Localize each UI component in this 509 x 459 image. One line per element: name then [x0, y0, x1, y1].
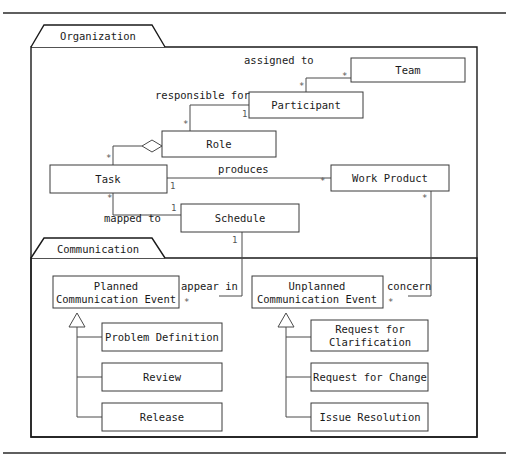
mult-participant-to-role-end: 1	[242, 109, 247, 119]
class-issue-resolution[interactable]: Issue Resolution	[311, 403, 428, 431]
class-label-request-for-clarification-line2: Clarification	[329, 336, 411, 348]
mult-task-produces-end: 1	[170, 181, 175, 191]
class-label-role: Role	[206, 138, 231, 150]
organization-package-label: Organization	[60, 30, 136, 42]
uml-class-diagram: Organization Communication Tea	[0, 0, 509, 459]
diagram-canvas: Organization Communication Tea	[0, 0, 509, 459]
class-label-request-for-change: Request for Change	[313, 371, 427, 383]
generalization-unplanned	[278, 313, 311, 417]
assoc-label-concern: concern	[387, 280, 431, 292]
mult-planned-event-end: *	[184, 297, 189, 307]
class-label-work-product: Work Product	[352, 172, 428, 184]
class-label-problem-definition: Problem Definition	[105, 331, 219, 343]
assoc-label-appear-in: appear in	[181, 280, 238, 292]
mult-unplanned-event-end: *	[388, 297, 393, 307]
class-planned-communication-event[interactable]: Planned Communication Event	[53, 276, 179, 308]
mult-work-product-end: *	[320, 176, 325, 186]
class-problem-definition[interactable]: Problem Definition	[102, 323, 222, 351]
class-label-release: Release	[140, 411, 184, 423]
generalization-planned	[69, 313, 102, 417]
class-schedule[interactable]: Schedule	[181, 204, 299, 232]
class-label-issue-resolution: Issue Resolution	[319, 411, 420, 423]
link-participant-responsible-for-role	[190, 105, 249, 131]
class-request-for-change[interactable]: Request for Change	[311, 363, 428, 391]
class-role[interactable]: Role	[162, 131, 276, 157]
class-release[interactable]: Release	[102, 403, 222, 431]
class-participant[interactable]: Participant	[249, 92, 363, 118]
class-label-task: Task	[95, 173, 121, 185]
class-label-participant: Participant	[271, 99, 341, 111]
mult-participant-to-team-end: *	[299, 81, 304, 91]
generalization-triangle-unplanned	[278, 313, 294, 327]
communication-package-label: Communication	[57, 243, 139, 255]
class-label-review: Review	[143, 371, 182, 383]
class-work-product[interactable]: Work Product	[331, 165, 449, 191]
mult-role-end: *	[183, 119, 188, 129]
class-label-schedule: Schedule	[215, 212, 266, 224]
class-team[interactable]: Team	[351, 58, 465, 82]
link-role-aggregates-task	[113, 146, 142, 165]
mult-role-aggregation-task-end: *	[106, 153, 111, 163]
mult-schedule-end: 1	[171, 203, 176, 213]
class-label-unplanned-communication-event-line2: Communication Event	[257, 293, 377, 305]
mult-team-end: *	[342, 71, 347, 81]
mult-schedule-down-end: 1	[232, 235, 237, 245]
class-request-for-clarification[interactable]: Request for Clarification	[311, 320, 428, 351]
class-label-request-for-clarification-line1: Request for	[335, 323, 405, 335]
class-task[interactable]: Task	[50, 165, 167, 193]
class-label-planned-communication-event-line2: Communication Event	[56, 293, 176, 305]
class-unplanned-communication-event[interactable]: Unplanned Communication Event	[252, 276, 383, 308]
generalization-triangle-planned	[69, 313, 85, 327]
assoc-label-assigned-to: assigned to	[244, 54, 314, 66]
mult-work-product-down-end: *	[422, 193, 427, 203]
assoc-label-responsible-for: responsible for	[155, 89, 250, 101]
class-label-team: Team	[395, 64, 420, 76]
mult-task-mapped-end: *	[107, 193, 112, 203]
assoc-label-produces: produces	[218, 163, 269, 175]
class-label-unplanned-communication-event-line1: Unplanned	[289, 280, 346, 292]
assoc-label-mapped-to: mapped to	[104, 212, 161, 224]
class-label-planned-communication-event-line1: Planned	[94, 280, 138, 292]
class-review[interactable]: Review	[102, 363, 222, 391]
aggregation-diamond-role	[142, 140, 162, 152]
